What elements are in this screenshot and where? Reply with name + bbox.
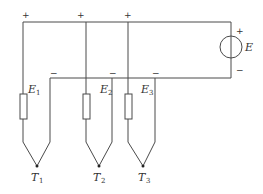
thermocouple-1: E 1 T 1 xyxy=(20,22,50,185)
svg-text:−: − xyxy=(236,65,244,75)
plus-sign-1: + xyxy=(22,10,30,20)
svg-text:E: E xyxy=(99,83,108,96)
thermocouple-3: E 3 T 3 xyxy=(125,22,155,185)
minus-sign-3: − xyxy=(152,68,160,78)
svg-text:2: 2 xyxy=(101,177,105,185)
minus-sign-1: − xyxy=(50,68,58,78)
thermocouple-2: E 2 T 2 xyxy=(83,22,112,185)
svg-text:3: 3 xyxy=(149,89,153,97)
minus-sign-2: − xyxy=(109,68,117,78)
svg-text:E: E xyxy=(140,83,149,96)
svg-text:+: + xyxy=(236,26,244,36)
positive-bus xyxy=(23,22,231,36)
plus-sign-2: + xyxy=(77,10,85,20)
svg-text:1: 1 xyxy=(36,89,40,97)
circuit-diagram: + − E + + + − − − E 1 T 1 E 2 T 2 xyxy=(0,0,263,194)
svg-text:1: 1 xyxy=(39,177,43,185)
voltage-source: + − E xyxy=(220,26,253,75)
svg-text:2: 2 xyxy=(108,89,112,97)
plus-sign-3: + xyxy=(124,10,132,20)
svg-text:3: 3 xyxy=(146,177,150,185)
negative-bus xyxy=(50,58,231,78)
svg-text:E: E xyxy=(244,41,253,54)
svg-text:E: E xyxy=(27,83,36,96)
